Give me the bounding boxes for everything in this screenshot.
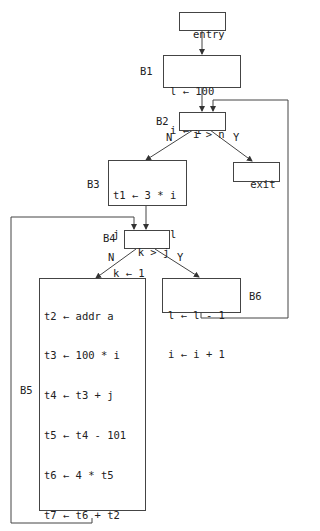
b3-block: t1 ← 3 * i j ← t1 + l k ← 1 xyxy=(108,160,187,206)
b3-label: B3 xyxy=(87,178,100,190)
exit-label: exit xyxy=(250,178,275,190)
b6-label: B6 xyxy=(249,290,262,302)
b4-block: k > j xyxy=(124,230,170,249)
b4-no-label: N xyxy=(108,251,114,263)
b4-label: B4 xyxy=(103,232,116,244)
b2-label: B2 xyxy=(156,115,169,127)
b2-block: i > n xyxy=(179,112,226,131)
b4-yes-label: Y xyxy=(177,251,183,263)
b5-line-2: t3 ← 100 * i xyxy=(44,349,141,362)
b6-line-1: l ← l - 1 xyxy=(168,309,235,322)
b4-line-1: k > j xyxy=(138,246,170,258)
b5-label: B5 xyxy=(20,384,33,396)
b1-label: B1 xyxy=(140,65,153,77)
b5-line-1: t2 ← addr a xyxy=(44,310,141,323)
b5-line-4: t5 ← t4 - 101 xyxy=(44,429,141,442)
b5-block: t2 ← addr a t3 ← 100 * i t4 ← t3 + j t5 … xyxy=(39,278,146,511)
b6-line-2: i ← i + 1 xyxy=(168,348,235,361)
b5-line-5: t6 ← 4 * t5 xyxy=(44,469,141,482)
b6-block: l ← l - 1 i ← i + 1 xyxy=(162,278,241,313)
b5-line-3: t4 ← t3 + j xyxy=(44,389,141,402)
entry-label: entry xyxy=(193,28,225,40)
entry-node: entry xyxy=(179,12,226,31)
b3-line-1: t1 ← 3 * i xyxy=(113,189,182,202)
exit-node: exit xyxy=(233,162,280,182)
b1-block: l ← 100 i ← 1 xyxy=(163,55,241,88)
b5-line-6: t7 ← t6 + t2 xyxy=(44,509,141,522)
b2-no-label: N xyxy=(166,131,172,143)
b2-line-1: i > n xyxy=(193,128,225,140)
b1-line-1: l ← 100 xyxy=(170,85,234,98)
b2-yes-label: Y xyxy=(233,131,239,143)
